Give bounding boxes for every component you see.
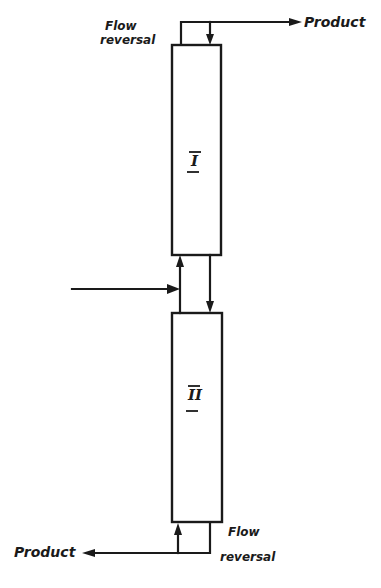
column-ii: II bbox=[172, 313, 222, 522]
bottom-product-stream bbox=[82, 522, 210, 557]
top-flow-reversal-stream bbox=[206, 22, 214, 45]
interstage-up-stream bbox=[176, 255, 184, 313]
top-product-label: Product bbox=[304, 14, 367, 30]
bottom-product-label: Product bbox=[14, 544, 77, 560]
top-flow-reversal-label-line2: reversal bbox=[100, 33, 156, 47]
bottom-flow-reversal-stream bbox=[174, 523, 182, 553]
arrow-down-icon bbox=[206, 34, 214, 45]
arrow-left-icon bbox=[82, 549, 95, 557]
flow-diagram: I II Product Flow reversal bbox=[0, 0, 381, 588]
feed-stream bbox=[72, 284, 180, 294]
arrow-down-icon bbox=[206, 301, 214, 313]
arrow-right-icon bbox=[167, 284, 180, 294]
top-flow-reversal-label-line1: Flow bbox=[105, 19, 138, 33]
top-product-stream bbox=[181, 18, 302, 45]
bottom-flow-reversal-label-line2: reversal bbox=[220, 550, 276, 564]
interstage-down-stream bbox=[206, 255, 214, 313]
bottom-flow-reversal-label-line1: Flow bbox=[228, 525, 261, 539]
svg-text:II: II bbox=[187, 386, 203, 404]
arrow-right-icon bbox=[289, 18, 302, 26]
arrow-up-icon bbox=[174, 523, 182, 535]
svg-text:I: I bbox=[190, 152, 199, 170]
column-i: I bbox=[172, 45, 221, 255]
arrow-up-icon bbox=[176, 255, 184, 267]
